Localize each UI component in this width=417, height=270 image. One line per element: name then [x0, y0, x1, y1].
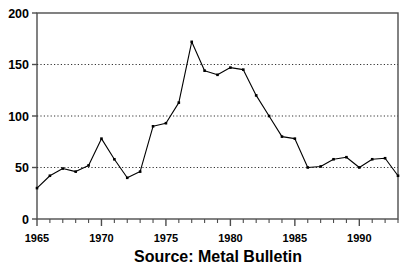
data-point-marker [100, 137, 103, 140]
data-point-marker [113, 158, 116, 161]
data-point-marker [268, 115, 271, 118]
line-chart: 050100150200196519701975198019851990Sour… [0, 0, 417, 270]
x-axis-tick-label: 1970 [89, 232, 113, 244]
y-axis-tick-label: 200 [8, 7, 29, 21]
data-point-marker [371, 158, 374, 161]
data-point-marker [384, 157, 387, 160]
data-point-marker [319, 165, 322, 168]
data-point-marker [255, 94, 258, 97]
data-point-marker [74, 170, 77, 173]
x-axis-tick-label: 1985 [283, 232, 307, 244]
chart-caption: Source: Metal Bulletin [134, 248, 302, 265]
x-axis-tick-label: 1975 [154, 232, 178, 244]
data-point-marker [61, 167, 64, 170]
data-point-marker [126, 177, 129, 180]
y-axis-tick-label: 100 [8, 110, 29, 124]
data-point-marker [345, 156, 348, 159]
data-point-marker [87, 164, 90, 167]
data-point-marker [306, 166, 309, 169]
data-point-marker [139, 170, 142, 173]
data-point-marker [49, 174, 52, 177]
data-point-marker [358, 166, 361, 169]
data-point-marker [152, 125, 155, 128]
y-axis-tick-label: 150 [8, 58, 29, 72]
data-point-marker [190, 41, 193, 44]
data-point-marker [203, 69, 206, 72]
data-point-marker [332, 158, 335, 161]
data-point-marker [397, 174, 400, 177]
data-point-marker [178, 101, 181, 104]
data-point-marker [294, 137, 297, 140]
x-axis-tick-label: 1980 [218, 232, 242, 244]
data-point-marker [165, 122, 168, 125]
x-axis-tick-label: 1990 [347, 232, 371, 244]
x-axis-tick-label: 1965 [25, 232, 49, 244]
data-point-marker [242, 68, 245, 71]
data-point-marker [216, 74, 219, 77]
data-point-marker [281, 135, 284, 138]
data-point-marker [36, 187, 39, 190]
data-point-marker [229, 66, 232, 69]
chart-figure: 050100150200196519701975198019851990Sour… [0, 0, 417, 270]
y-axis-tick-label: 0 [22, 213, 29, 227]
y-axis-tick-label: 50 [15, 161, 29, 175]
